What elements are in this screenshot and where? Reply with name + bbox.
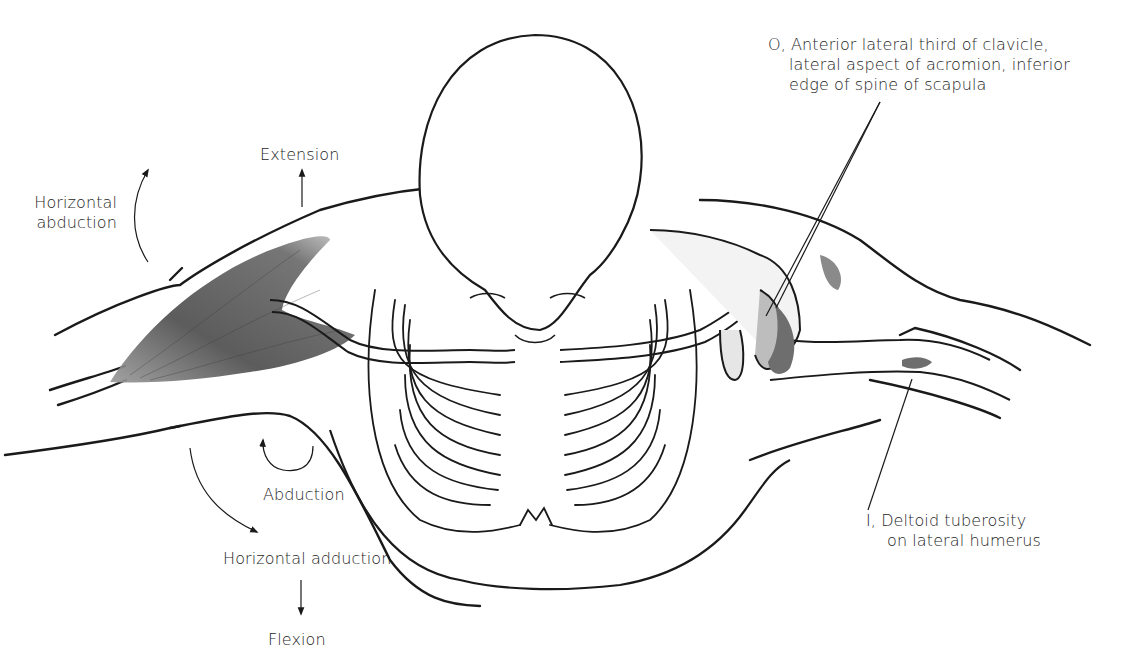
horizontal-adduction-arrow-icon: [190, 448, 257, 532]
horizontal-abduction-arrow-icon: [135, 170, 149, 262]
horizontal-adduction-label: Horizontal adduction: [223, 549, 391, 569]
horizontal-abduction-line-1: Horizontal: [17, 193, 117, 213]
head: [420, 35, 642, 343]
origin-label-line-3: edge of spine of scapula: [768, 75, 1070, 95]
left-arm-outline: [5, 188, 480, 606]
deltoid-anatomy-figure: O, Anterior lateral third of clavicle, l…: [0, 0, 1127, 663]
origin-label-line-1: O, Anterior lateral third of clavicle,: [768, 35, 1070, 55]
insertion-label-line-2: on lateral humerus: [866, 531, 1041, 551]
origin-label: O, Anterior lateral third of clavicle, l…: [768, 35, 1070, 95]
motion-arrows: [135, 170, 314, 614]
right-shoulder: [650, 230, 1010, 400]
origin-label-line-2: lateral aspect of acromion, inferior: [768, 55, 1070, 75]
anatomy-illustration: [0, 0, 1127, 663]
insertion-label: I, Deltoid tuberosity on lateral humerus: [866, 511, 1041, 551]
deltoid-muscle: [110, 236, 355, 382]
horizontal-abduction-label: Horizontal abduction: [17, 193, 117, 233]
horizontal-abduction-line-2: abduction: [17, 213, 117, 233]
abduction-arrow-icon: [263, 440, 313, 471]
leader-line-insertion: [868, 379, 912, 510]
abduction-label: Abduction: [263, 485, 345, 505]
extension-label: Extension: [260, 145, 339, 165]
flexion-label: Flexion: [268, 630, 326, 650]
insertion-label-line-1: I, Deltoid tuberosity: [866, 511, 1041, 531]
